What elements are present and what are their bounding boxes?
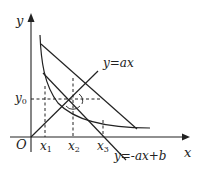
graph-lines bbox=[31, 35, 150, 160]
y-axis-label: y bbox=[15, 13, 24, 28]
y-axis-arrow-icon bbox=[28, 13, 35, 22]
x2-label: x2 bbox=[68, 139, 80, 154]
line-y-neg-ax-plus-b bbox=[43, 73, 126, 160]
function-graph-diagram: y x O y0 x1 x2 x3 y=ax y=-ax+b bbox=[0, 0, 203, 171]
curve bbox=[40, 35, 150, 128]
x1-label: x1 bbox=[40, 139, 52, 154]
y0-label: y0 bbox=[14, 91, 27, 106]
origin-label: O bbox=[16, 137, 27, 152]
line-y-neg-ax-plus-b-label: y=-ax+b bbox=[113, 149, 167, 163]
x-axis-arrow-icon bbox=[182, 134, 190, 141]
x3-label: x3 bbox=[97, 139, 109, 154]
x-axis-label: x bbox=[184, 145, 192, 160]
line-y-ax-label: y=ax bbox=[102, 56, 134, 70]
line-y-ax bbox=[31, 71, 98, 137]
